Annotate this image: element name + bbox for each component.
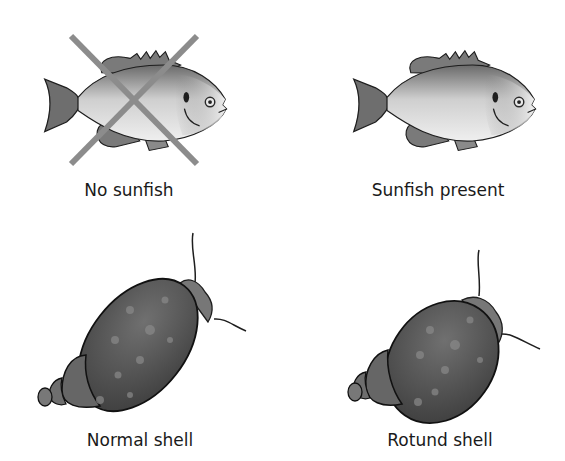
sunfish-illustration — [354, 51, 536, 151]
figure-canvas — [0, 0, 565, 461]
rotund-shell-snail-illustration — [348, 250, 540, 445]
panel-label-rotund-shell: Rotund shell — [387, 430, 492, 450]
normal-shell-snail-illustration — [38, 233, 246, 434]
panel-label-sunfish-present: Sunfish present — [372, 180, 505, 200]
panel-label-no-sunfish: No sunfish — [84, 180, 173, 200]
panel-label-normal-shell: Normal shell — [87, 430, 193, 450]
